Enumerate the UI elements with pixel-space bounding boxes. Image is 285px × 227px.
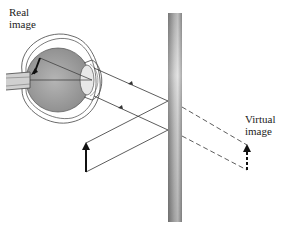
real-image-label: Real image xyxy=(9,6,36,30)
incident-rays xyxy=(86,101,168,172)
real-image-label-line2: image xyxy=(9,18,36,30)
ray-direction-icon xyxy=(128,81,133,85)
diagram-canvas: Real image Virtual image xyxy=(0,0,285,227)
reflected-rays xyxy=(94,68,168,130)
eye-diagram xyxy=(6,34,102,123)
diagram-svg xyxy=(0,0,285,227)
virtual-image-label: Virtual image xyxy=(245,113,276,137)
object-arrow xyxy=(82,142,90,172)
real-image-label-line1: Real xyxy=(9,6,36,18)
virtual-image-label-line2: image xyxy=(245,125,276,137)
virtual-image-label-line1: Virtual xyxy=(245,113,276,125)
mirror xyxy=(168,13,182,222)
virtual-ray-extensions xyxy=(182,107,247,170)
virtual-image-arrow xyxy=(243,144,251,170)
